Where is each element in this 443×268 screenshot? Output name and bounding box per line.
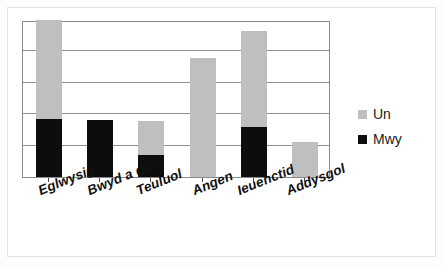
- bar-series-container: [23, 22, 329, 177]
- bar-segment-un[interactable]: [138, 121, 164, 156]
- legend-swatch-un: [358, 110, 367, 119]
- chart-legend: Un Mwy: [358, 104, 428, 154]
- chart-figure: EglwysigBwyd a diodTeuluolAngenIeuenctid…: [0, 0, 443, 268]
- bar-segment-un[interactable]: [292, 142, 318, 177]
- legend-item-un: Un: [358, 104, 428, 124]
- legend-swatch-mwy: [358, 135, 367, 144]
- bar-group[interactable]: [138, 20, 164, 177]
- bar-segment-un[interactable]: [36, 20, 62, 119]
- bar-segment-mwy[interactable]: [87, 120, 113, 177]
- bar-segment-mwy[interactable]: [36, 119, 62, 177]
- bar-group[interactable]: [292, 20, 318, 177]
- legend-label-un: Un: [373, 106, 391, 122]
- bar-group[interactable]: [36, 20, 62, 177]
- bar-segment-un[interactable]: [241, 31, 267, 127]
- bar-segment-un[interactable]: [190, 58, 216, 177]
- bar-group[interactable]: [190, 20, 216, 177]
- bar-segment-mwy[interactable]: [241, 127, 267, 177]
- bar-segment-mwy[interactable]: [138, 155, 164, 177]
- plot-area: [22, 21, 330, 178]
- bar-group[interactable]: [87, 20, 113, 177]
- legend-label-mwy: Mwy: [373, 131, 402, 147]
- legend-item-mwy: Mwy: [358, 129, 428, 149]
- bar-group[interactable]: [241, 20, 267, 177]
